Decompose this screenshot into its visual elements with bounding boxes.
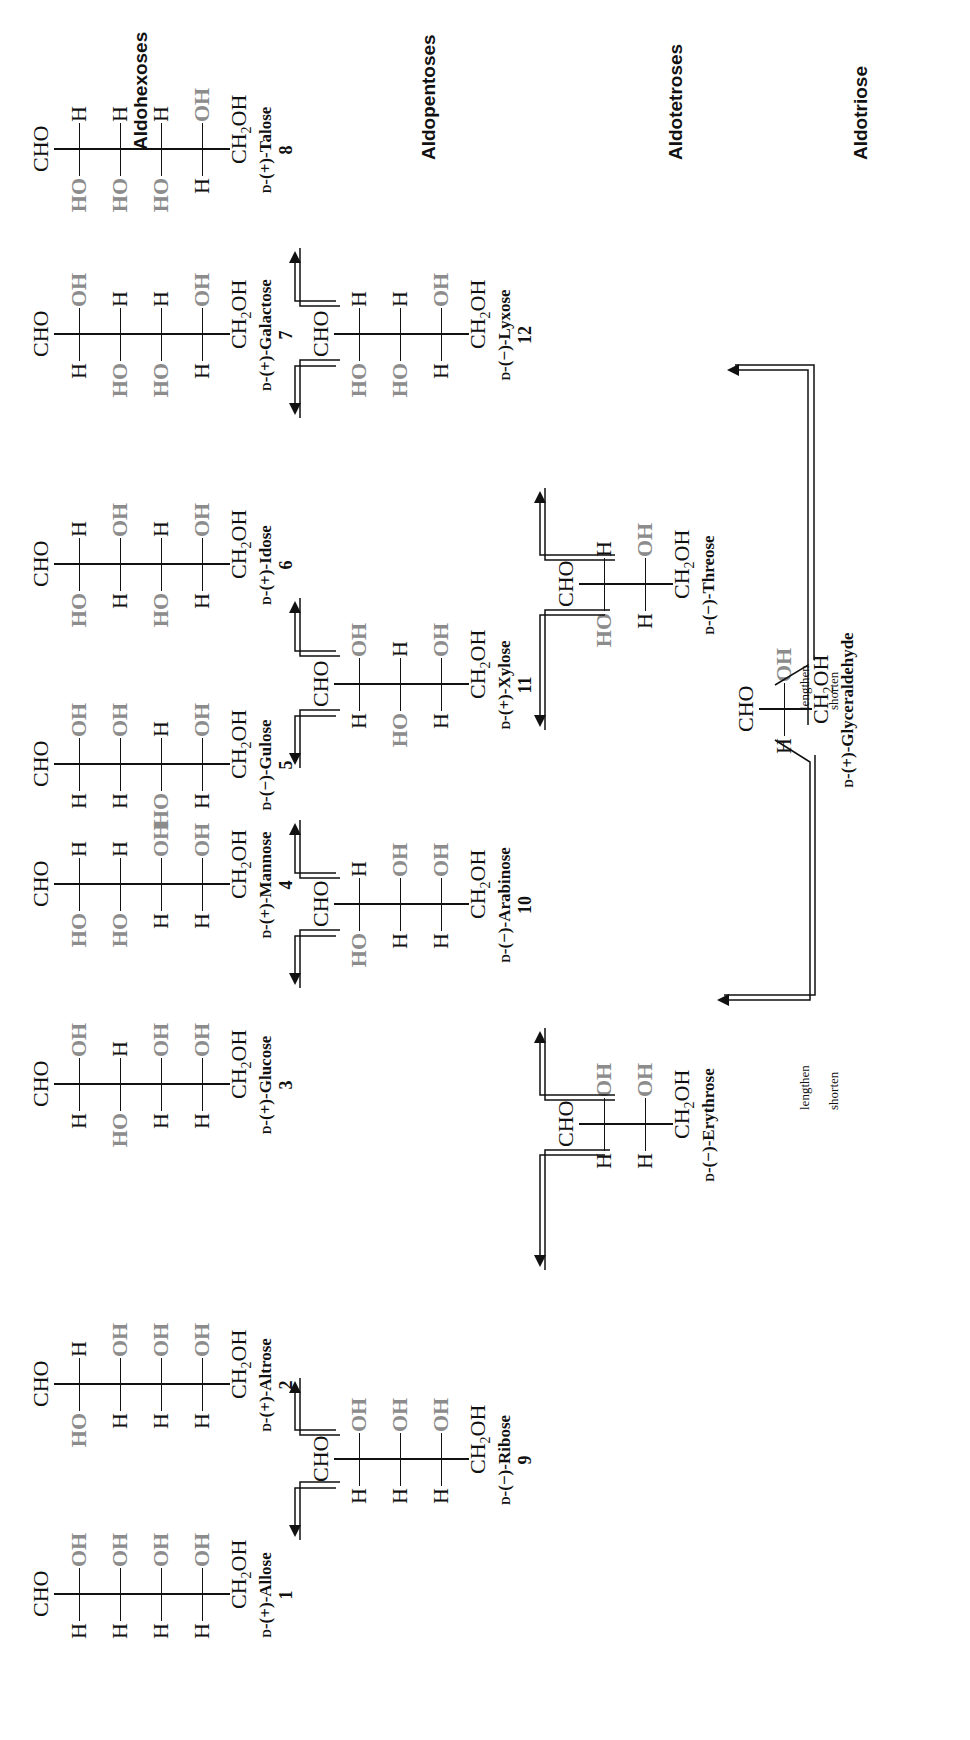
arrow-arabinose-mannose <box>300 820 340 878</box>
arrow-lyxose-talose <box>300 248 340 306</box>
arrow-glyceraldehyde-threose <box>775 665 808 725</box>
arrow-ribose-altrose <box>300 1378 340 1435</box>
arrow-lyxose-galactose <box>300 360 340 418</box>
arrow-xylose-idose <box>300 598 340 656</box>
arrow-arabinose-glucose <box>300 930 340 988</box>
arrow-threose-xylose <box>545 610 610 730</box>
arrow-ribose-allose <box>300 1482 340 1540</box>
arrow-threose-lyxose <box>545 488 615 560</box>
arrow-erythrose-arabinose <box>545 1028 615 1100</box>
aldose-family-tree: Aldohexoses Aldohexoses Aldopentoses Ald… <box>0 0 970 1740</box>
arrow-erythrose-ribose <box>545 1150 610 1270</box>
arrows-layer <box>0 0 970 1740</box>
arrow-xylose-gulose <box>300 710 340 768</box>
arrow-glyceraldehyde-erythrose <box>720 740 810 1000</box>
